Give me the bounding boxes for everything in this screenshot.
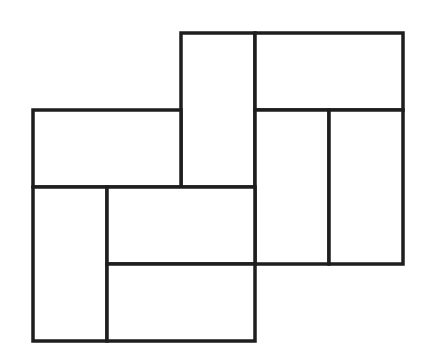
tile-rect-t2 <box>255 33 403 110</box>
tile-rect-t1 <box>181 33 255 187</box>
tile-rect-t5 <box>329 110 403 264</box>
tiling-diagram <box>0 0 421 354</box>
tile-rect-t3 <box>33 110 181 187</box>
tile-rect-t6 <box>33 187 107 341</box>
tile-rect-t7 <box>107 187 255 264</box>
tile-rect-t4 <box>255 110 329 264</box>
tile-rect-t8 <box>107 264 255 341</box>
